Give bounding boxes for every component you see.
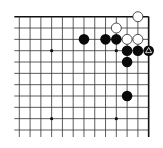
black-stone-body bbox=[122, 57, 133, 68]
black-stone-body bbox=[79, 34, 90, 45]
black-stone bbox=[111, 34, 122, 45]
white-stone-body bbox=[133, 34, 143, 44]
black-stone bbox=[143, 45, 154, 56]
white-stone-body bbox=[122, 34, 132, 44]
star-point bbox=[50, 117, 53, 120]
white-stone bbox=[122, 34, 132, 44]
black-stone-body bbox=[122, 91, 133, 102]
black-stone bbox=[122, 57, 133, 68]
white-stone-body bbox=[133, 12, 143, 22]
white-stone bbox=[111, 23, 121, 33]
black-stone bbox=[79, 34, 90, 45]
white-stone bbox=[133, 34, 143, 44]
white-stone-body bbox=[111, 23, 121, 33]
star-point bbox=[115, 49, 118, 52]
black-stone-body bbox=[111, 34, 122, 45]
black-stone bbox=[122, 45, 133, 56]
black-stone-body bbox=[133, 45, 144, 56]
star-point bbox=[50, 49, 53, 52]
black-stone-body bbox=[100, 34, 111, 45]
star-point bbox=[115, 117, 118, 120]
black-stone-body bbox=[122, 45, 133, 56]
black-stone bbox=[122, 91, 133, 102]
white-stone bbox=[133, 12, 143, 22]
go-board bbox=[0, 0, 163, 148]
black-stone bbox=[100, 34, 111, 45]
black-stone bbox=[133, 45, 144, 56]
